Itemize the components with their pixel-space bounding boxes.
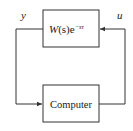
signal-y-label: y [20, 9, 26, 21]
signal-u-label: u [117, 9, 123, 21]
signal-y-line [16, 29, 43, 104]
computer-label: Computer [50, 99, 92, 110]
computer-block: Computer [43, 85, 99, 122]
signal-u-line [99, 29, 125, 104]
plant-block: W(s)e−sτ [43, 10, 99, 47]
feedback-block-diagram: W(s)e−sτ Computer y u [0, 0, 133, 131]
plant-label-exponent: −sτ [75, 23, 85, 30]
plant-label-paren: (s) [58, 23, 70, 36]
